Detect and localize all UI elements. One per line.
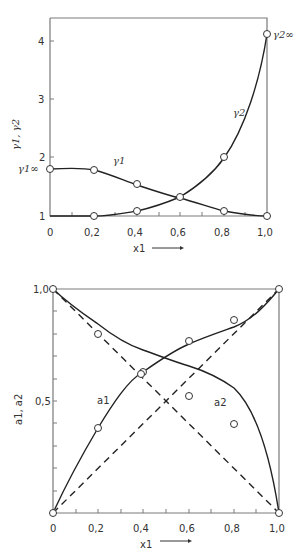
a2-label: a2 [214,397,227,408]
gamma1-label: γ1 [113,155,125,166]
a1-label: a1 [97,395,110,406]
top-chart: 4 3 2 1 0 0,2 0,4 0,6 0,8 1,0 γ1, γ2 x1 [10,18,294,254]
bottom-xtick-label-06: 0,6 [179,523,195,534]
bottom-xtick-label-02: 0,2 [88,523,104,534]
top-ytick-label-3: 3 [38,94,44,105]
bottom-xlabel: x1 [140,539,152,549]
top-ytick-label-4: 4 [38,36,44,47]
top-xtick-label-10: 1,0 [257,227,273,238]
gamma1-inf-label: γ1∞ [18,163,39,174]
top-xtick-label-06: 0,6 [170,227,186,238]
bottom-xtick-label-04: 0,4 [133,523,149,534]
top-xlabel: x1 [133,243,145,254]
gamma1-curve [50,168,267,216]
bottom-xlabel-arrowhead-icon [188,539,192,543]
figure: 4 3 2 1 0 0,2 0,4 0,6 0,8 1,0 γ1, γ2 x1 [0,0,299,549]
top-ytick-label-2: 2 [39,152,45,163]
top-xtick-label-02: 0,2 [84,227,100,238]
top-ytick-label-1: 1 [39,211,45,222]
bottom-xtick-label-0: 0 [50,523,56,534]
bottom-ytick-label-10: 1,0 [33,284,49,295]
gamma2-curve [50,34,267,216]
top-xtick-label-08: 0,8 [214,227,230,238]
bottom-xtick-label-10: 1,0 [269,523,285,534]
top-xlabel-arrowhead-icon [180,246,184,250]
gamma2-label: γ2 [233,107,245,118]
top-xtick-label-04: 0,4 [127,227,143,238]
gamma2-points [91,31,271,220]
top-xtick-label-0: 0 [47,227,53,238]
bottom-ylabel: a1, a2 [13,394,24,425]
gamma2-inf-label: γ2∞ [273,29,294,40]
bottom-xtick-label-08: 0,8 [224,523,240,534]
bottom-ytick-label-05: 0,5 [35,396,51,407]
top-ylabel: γ1, γ2 [10,119,21,150]
bottom-chart: 1,0 0,5 0 0,2 0,4 0,6 0,8 1,0 a1, a2 x1 [13,284,285,549]
